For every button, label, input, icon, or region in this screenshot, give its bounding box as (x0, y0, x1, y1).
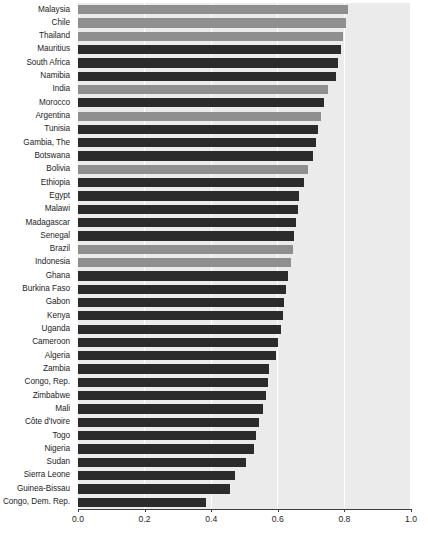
category-label: Sierra Leone (0, 469, 74, 482)
bar (78, 311, 283, 320)
bar (78, 404, 263, 413)
tick-mark (78, 509, 79, 512)
category-label: Argentina (0, 110, 74, 123)
bar-row (78, 389, 411, 402)
bar (78, 218, 296, 227)
category-label: Morocco (0, 96, 74, 109)
category-label: Senegal (0, 229, 74, 242)
bar (78, 458, 246, 467)
bar-row (78, 416, 411, 429)
category-label: South Africa (0, 56, 74, 69)
plot-area (78, 3, 411, 509)
bar (78, 351, 276, 360)
bar (78, 298, 284, 307)
bar-row (78, 402, 411, 415)
bar-row (78, 496, 411, 509)
category-label: Guinea-Bissau (0, 482, 74, 495)
tick-mark (411, 509, 412, 512)
bar-row (78, 123, 411, 136)
category-label: Chile (0, 16, 74, 29)
bar-row (78, 56, 411, 69)
bar (78, 338, 278, 347)
category-label: Ghana (0, 269, 74, 282)
bar (78, 471, 235, 480)
bar-row (78, 110, 411, 123)
bar (78, 444, 254, 453)
bar (78, 285, 286, 294)
bar (78, 364, 269, 373)
tick-mark (278, 509, 279, 512)
bar-row (78, 189, 411, 202)
bar (78, 191, 299, 200)
bar-row (78, 349, 411, 362)
category-label: Malaysia (0, 3, 74, 16)
category-label: Cameroon (0, 336, 74, 349)
bar (78, 418, 259, 427)
bar-row (78, 149, 411, 162)
category-label: Madagascar (0, 216, 74, 229)
category-label: Indonesia (0, 256, 74, 269)
bar (78, 391, 266, 400)
bar (78, 325, 281, 334)
bar-row (78, 163, 411, 176)
bar-row (78, 70, 411, 83)
bar (78, 18, 346, 27)
bar (78, 245, 293, 254)
bar-row (78, 96, 411, 109)
category-label: Zambia (0, 362, 74, 375)
x-axis-ticks: 0.00.20.40.60.81.0 (78, 509, 411, 529)
bar-row (78, 283, 411, 296)
x-tick-label: 1.0 (405, 514, 417, 524)
category-label: Kenya (0, 309, 74, 322)
category-label: Namibia (0, 70, 74, 83)
bar-row (78, 3, 411, 16)
category-label: India (0, 83, 74, 96)
category-label: Sudan (0, 456, 74, 469)
bar-row (78, 83, 411, 96)
bar-row (78, 243, 411, 256)
bar-row (78, 456, 411, 469)
category-label: Mauritius (0, 43, 74, 56)
bar (78, 165, 308, 174)
category-label: Tunisia (0, 123, 74, 136)
bar (78, 125, 318, 134)
bar-row (78, 176, 411, 189)
bar-row (78, 376, 411, 389)
category-label: Nigeria (0, 442, 74, 455)
category-label: Botswana (0, 149, 74, 162)
category-label: Congo, Dem. Rep. (0, 496, 74, 509)
bar-row (78, 469, 411, 482)
category-label: Egypt (0, 189, 74, 202)
bar (78, 378, 268, 387)
bar-row (78, 296, 411, 309)
bar-row (78, 429, 411, 442)
bar (78, 72, 336, 81)
x-tick-label: 0.6 (272, 514, 284, 524)
bars-container (78, 3, 411, 509)
caption-strip (0, 529, 428, 535)
bar (78, 231, 294, 240)
bar-row (78, 336, 411, 349)
bar-row (78, 136, 411, 149)
category-label: Uganda (0, 323, 74, 336)
category-label: Gambia, The (0, 136, 74, 149)
category-label: Congo, Rep. (0, 376, 74, 389)
category-label: Ethiopia (0, 176, 74, 189)
bar (78, 32, 343, 41)
bar-row (78, 229, 411, 242)
bar (78, 45, 341, 54)
category-label: Côte d'Ivoire (0, 416, 74, 429)
x-tick-label: 0.4 (205, 514, 217, 524)
category-label: Gabon (0, 296, 74, 309)
tick-mark (211, 509, 212, 512)
bar (78, 271, 288, 280)
bar (78, 484, 230, 493)
category-label: Brazil (0, 243, 74, 256)
category-label: Malawi (0, 203, 74, 216)
bar-row (78, 43, 411, 56)
bar-row (78, 16, 411, 29)
x-tick-label: 0.8 (338, 514, 350, 524)
category-label: Mali (0, 402, 74, 415)
bar (78, 151, 313, 160)
bar (78, 178, 304, 187)
